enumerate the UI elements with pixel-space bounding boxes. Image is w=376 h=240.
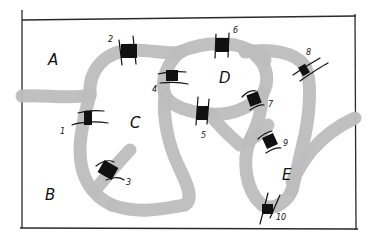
bridge-label-10: 10 xyxy=(276,213,286,222)
bridge-label-6: 6 xyxy=(233,26,238,35)
bridge-label-8: 8 xyxy=(306,48,311,57)
bridge-label-2: 2 xyxy=(108,35,113,44)
bridge-label-1: 1 xyxy=(60,127,65,136)
region-label-c: C xyxy=(130,114,141,132)
bridge-label-5: 5 xyxy=(201,131,206,140)
bridge-label-3: 3 xyxy=(126,178,131,187)
bridge-map: 1 2 3 4 5 xyxy=(0,0,376,240)
region-label-b: B xyxy=(45,186,55,204)
region-label-d: D xyxy=(219,69,231,87)
bridge-label-9: 9 xyxy=(283,139,288,148)
bridge-label-4: 4 xyxy=(152,85,157,94)
bridge-5: 5 xyxy=(196,97,209,140)
region-label-a: A xyxy=(47,51,58,69)
bridge-label-7: 7 xyxy=(268,100,274,109)
region-label-e: E xyxy=(282,166,292,184)
